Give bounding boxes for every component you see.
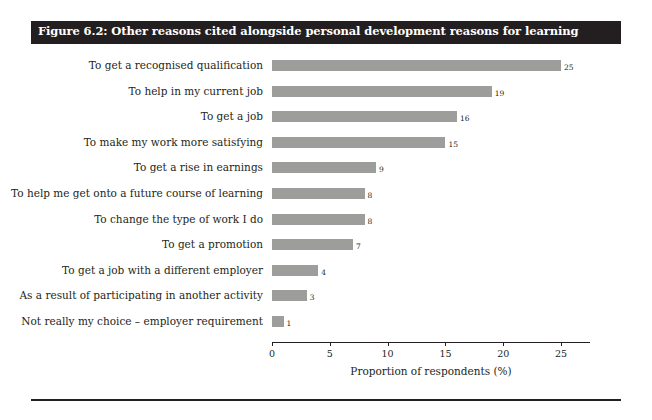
- y-axis-label: Not really my choice – employer requirem…: [21, 315, 263, 327]
- figure-title: Figure 6.2: Other reasons cited alongsid…: [38, 24, 578, 38]
- y-axis-label: As a result of participating in another …: [20, 289, 263, 301]
- x-axis-tick: [445, 342, 446, 346]
- x-axis-tick: [561, 342, 562, 346]
- x-axis-tick-label: 5: [327, 348, 333, 359]
- y-axis-label: To get a job: [201, 110, 263, 122]
- figure-title-bar: Figure 6.2: Other reasons cited alongsid…: [31, 21, 621, 44]
- chart-plot-area: To get a recognised qualificationTo help…: [31, 52, 621, 362]
- y-axis-label: To get a promotion: [162, 238, 263, 250]
- y-axis-label: To change the type of work I do: [94, 213, 263, 225]
- bar-series: 251916159887431: [272, 52, 621, 342]
- y-axis-label: To get a rise in earnings: [134, 161, 263, 173]
- x-axis-tick-label: 0: [269, 348, 275, 359]
- x-axis-tick-label: 25: [555, 348, 567, 359]
- bar: [272, 86, 492, 97]
- bar: [272, 60, 561, 71]
- x-axis-tick: [272, 342, 273, 346]
- x-axis-tick-label: 10: [382, 348, 394, 359]
- bar-value-label: 15: [448, 140, 458, 149]
- bar-value-label: 8: [368, 217, 373, 226]
- bar-value-label: 19: [495, 89, 505, 98]
- bar-value-label: 9: [379, 165, 384, 174]
- bar: [272, 290, 307, 301]
- y-axis-label: To get a job with a different employer: [62, 264, 263, 276]
- x-axis-tick: [503, 342, 504, 346]
- x-axis-title: Proportion of respondents (%): [272, 365, 590, 377]
- y-axis-label: To help in my current job: [129, 85, 263, 97]
- bar: [272, 137, 445, 148]
- bar: [272, 162, 376, 173]
- bar: [272, 188, 365, 199]
- y-axis-label: To get a recognised qualification: [89, 59, 263, 71]
- bar-value-label: 16: [460, 114, 470, 123]
- y-axis-label: To make my work more satisfying: [84, 136, 263, 148]
- y-axis-category-labels: To get a recognised qualificationTo help…: [31, 52, 270, 342]
- bar: [272, 265, 318, 276]
- y-axis-label: To help me get onto a future course of l…: [11, 187, 263, 199]
- bar-value-label: 8: [368, 191, 373, 200]
- bar: [272, 239, 353, 250]
- x-axis-tick-label: 15: [439, 348, 451, 359]
- bar: [272, 111, 457, 122]
- bar: [272, 214, 365, 225]
- bar-value-label: 7: [356, 242, 361, 251]
- x-axis-line: [272, 342, 590, 343]
- figure-container: Figure 6.2: Other reasons cited alongsid…: [0, 0, 652, 420]
- bar: [272, 316, 284, 327]
- figure-bottom-rule: [31, 399, 621, 401]
- bar-value-label: 4: [321, 268, 326, 277]
- x-axis-tick-label: 20: [497, 348, 509, 359]
- bar-value-label: 3: [310, 293, 315, 302]
- bar-value-label: 25: [564, 63, 574, 72]
- x-axis-tick: [388, 342, 389, 346]
- bar-value-label: 1: [287, 319, 292, 328]
- x-axis-tick: [330, 342, 331, 346]
